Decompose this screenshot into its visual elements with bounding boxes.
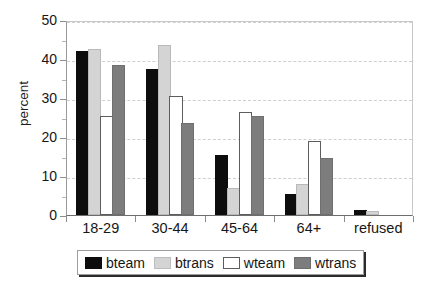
- x-category-label-18-29: 18-29: [66, 220, 135, 236]
- y-tick-label: 50: [9, 13, 57, 27]
- bar-wtrans-30-44: [181, 123, 194, 215]
- x-category-label-45-64: 45-64: [205, 220, 274, 236]
- bar-btrans-refused: [366, 211, 379, 215]
- legend-item-wteam[interactable]: wteam: [223, 255, 285, 271]
- legend-label-wtrans: wtrans: [315, 255, 356, 271]
- chart-legend: bteambtranswteamwtrans: [77, 250, 364, 275]
- cutoff-caption-strip: [0, 0, 426, 6]
- bar-wtrans-18-29: [112, 65, 125, 215]
- x-category-label-30-44: 30-44: [135, 220, 204, 236]
- legend-swatch-wteam: [223, 257, 240, 269]
- legend-swatch-bteam: [85, 257, 102, 269]
- plot-area: [66, 21, 413, 216]
- legend-swatch-btrans: [154, 257, 171, 269]
- x-category-label-refused: refused: [344, 220, 413, 236]
- gridline: [67, 22, 412, 23]
- bar-wtrans-45-64: [251, 116, 264, 216]
- y-tick-label: 0: [9, 208, 57, 222]
- legend-swatch-wtrans: [294, 257, 311, 269]
- gridline: [67, 61, 412, 62]
- x-tick-mark: [413, 216, 414, 222]
- x-category-label-64+: 64+: [274, 220, 343, 236]
- legend-label-wteam: wteam: [244, 255, 285, 271]
- y-tick-label: 40: [9, 52, 57, 66]
- bar-wtrans-64+: [320, 158, 333, 215]
- legend-label-btrans: btrans: [175, 255, 214, 271]
- legend-item-btrans[interactable]: btrans: [154, 255, 214, 271]
- y-tick-label: 10: [9, 169, 57, 183]
- y-tick-label: 30: [9, 91, 57, 105]
- bar-chart: percent 01020304050 18-2930-4445-6464+re…: [0, 0, 426, 288]
- legend-item-bteam[interactable]: bteam: [85, 255, 145, 271]
- legend-item-wtrans[interactable]: wtrans: [294, 255, 356, 271]
- y-tick-label: 20: [9, 130, 57, 144]
- legend-label-bteam: bteam: [106, 255, 145, 271]
